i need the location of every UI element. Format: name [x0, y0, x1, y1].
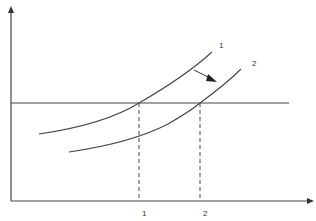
curve-1	[39, 52, 212, 134]
curve-1-label: 1	[219, 42, 223, 50]
x-axis-arrowhead-icon	[307, 198, 314, 204]
x-marker-2-label: 2	[203, 210, 207, 218]
x-marker-1-label: 1	[142, 210, 146, 218]
curve-2-label: 2	[252, 60, 256, 68]
x-axis	[11, 198, 314, 204]
shift-diagram	[0, 0, 316, 221]
y-axis-arrowhead-icon	[8, 6, 14, 13]
shift-arrowhead-icon	[206, 74, 217, 82]
shift-arrow	[194, 70, 217, 82]
